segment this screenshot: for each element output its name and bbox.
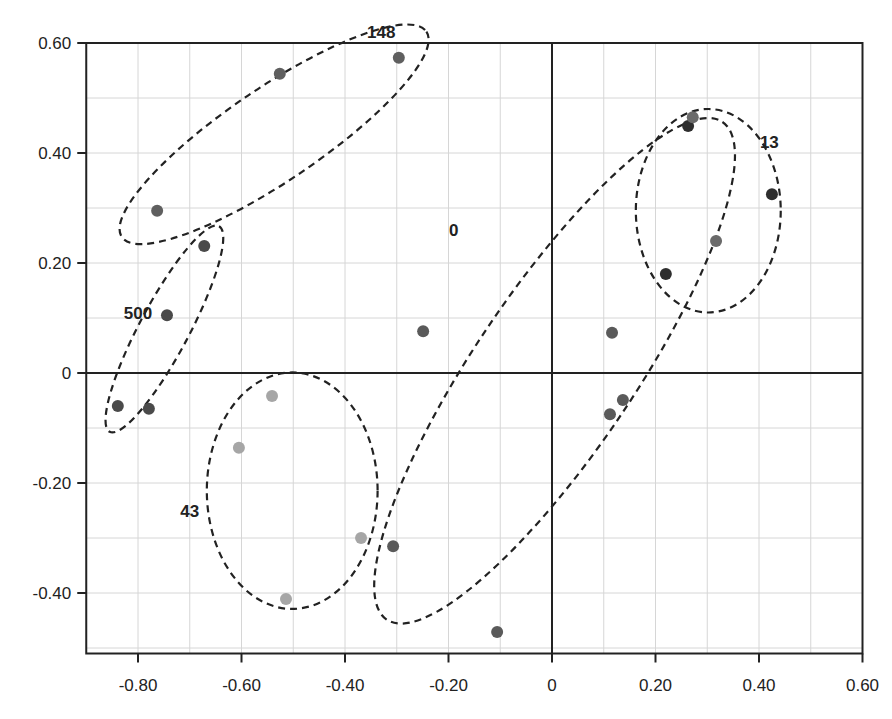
data-point — [417, 325, 429, 337]
data-point — [617, 394, 629, 406]
data-point — [660, 268, 672, 280]
x-tick-label: -0.40 — [326, 676, 365, 695]
data-point — [233, 442, 245, 454]
x-tick-label: 0.40 — [742, 676, 775, 695]
cluster-label-500: 500 — [124, 304, 152, 323]
plot-frame — [86, 43, 862, 654]
x-tick-label: 0.20 — [639, 676, 672, 695]
x-tick-label: -0.80 — [119, 676, 158, 695]
data-point — [606, 327, 618, 339]
data-point — [161, 309, 173, 321]
cluster-ellipses — [88, 0, 789, 664]
data-point — [710, 235, 722, 247]
data-point — [266, 390, 278, 402]
x-tick-label: -0.60 — [222, 676, 261, 695]
cluster-label-43: 43 — [180, 502, 199, 521]
data-point — [280, 593, 292, 605]
cluster-label-148: 148 — [367, 23, 395, 42]
y-tick-label: 0 — [62, 364, 71, 383]
x-tick-label: 0.60 — [846, 676, 879, 695]
y-tick-label: -0.40 — [33, 584, 72, 603]
cluster-label-0: 0 — [449, 221, 458, 240]
cluster-ellipse-500 — [88, 215, 241, 444]
y-tick-label: 0.40 — [38, 144, 71, 163]
x-tick-label: -0.20 — [429, 676, 468, 695]
y-tick-label: 0.20 — [38, 254, 71, 273]
cluster-ellipse-148 — [96, 0, 453, 276]
cluster-ellipse-43 — [207, 372, 378, 609]
data-point — [393, 52, 405, 64]
data-point — [766, 188, 778, 200]
data-point — [143, 403, 155, 415]
data-point — [151, 205, 163, 217]
axes — [86, 43, 862, 654]
data-points — [112, 52, 778, 638]
y-tick-label: -0.20 — [33, 474, 72, 493]
data-point — [687, 111, 699, 123]
data-point — [355, 532, 367, 544]
data-point — [112, 400, 124, 412]
scatter-chart: -0.80-0.60-0.40-0.2000.200.400.60 0.600.… — [0, 0, 892, 719]
grid-lines — [86, 43, 862, 654]
data-point — [491, 626, 503, 638]
cluster-label-13: 13 — [760, 133, 779, 152]
data-point — [198, 240, 210, 252]
x-axis-ticks: -0.80-0.60-0.40-0.2000.200.400.60 — [119, 654, 879, 695]
y-axis-ticks: 0.600.400.200-0.20-0.40 — [33, 34, 87, 603]
data-point — [274, 68, 286, 80]
data-point — [387, 540, 399, 552]
y-tick-label: 0.60 — [38, 34, 71, 53]
cluster-ellipse-0 — [321, 77, 789, 664]
x-tick-label: 0 — [547, 676, 556, 695]
data-point — [604, 408, 616, 420]
